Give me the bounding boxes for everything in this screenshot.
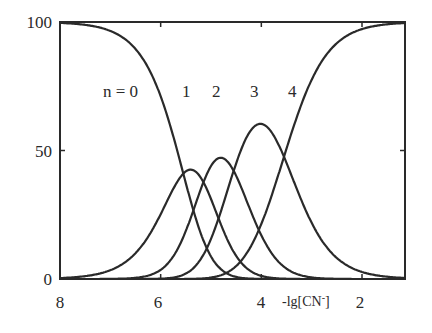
series-curve-n4 (60, 23, 404, 279)
x-tick-label-2: 2 (356, 293, 365, 312)
y-tick-label-0: 0 (44, 270, 53, 289)
axis-ticks (60, 22, 405, 279)
series-label-n1: 1 (182, 82, 191, 101)
series-label-n4: 4 (288, 82, 297, 101)
plot-frame (60, 22, 405, 279)
distribution-chart: 100 50 0 8 6 4 2 -lg[CN-] n = 0 1 2 3 4 (0, 0, 432, 333)
x-tick-label-4: 4 (257, 293, 266, 312)
y-tick-label-50: 50 (35, 142, 52, 161)
x-axis-label: -lg[CN-] (282, 292, 330, 309)
series-label-n3: 3 (250, 82, 259, 101)
y-tick-label-100: 100 (27, 13, 53, 32)
x-tick-label-6: 6 (154, 293, 163, 312)
x-tick-label-8: 8 (56, 293, 65, 312)
series-label-n2: 2 (212, 82, 221, 101)
series-curve-n3 (60, 124, 404, 279)
series-label-n0: n = 0 (103, 82, 138, 101)
series-curve-n1 (60, 170, 404, 279)
series-curves (60, 23, 404, 279)
series-curve-n0 (60, 23, 404, 279)
